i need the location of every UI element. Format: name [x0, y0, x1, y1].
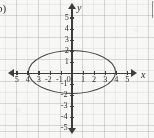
x-tick-label: 4: [114, 76, 118, 84]
ellipse-curve: [28, 50, 116, 94]
x-axis-arrow-left-icon: [8, 69, 14, 77]
x-tick-label: 5: [15, 76, 19, 84]
figure-canvas: b) x y 543-2-11234554321-1-2-3-4-5 0: [0, 0, 154, 138]
x-tick: [83, 71, 84, 75]
coordinate-plot: x y 543-2-11234554321-1-2-3-4-5 0: [0, 0, 154, 138]
x-tick-label: 3: [37, 76, 41, 84]
y-tick: [70, 128, 74, 129]
y-tick: [70, 95, 74, 96]
y-tick: [70, 29, 74, 30]
x-tick-label: 1: [81, 76, 85, 84]
y-tick: [70, 62, 74, 63]
y-tick: [70, 117, 74, 118]
y-tick-label: 1: [65, 58, 69, 66]
y-axis-label: y: [77, 2, 81, 13]
x-axis-label: x: [141, 69, 145, 80]
x-tick-label: 5: [125, 76, 129, 84]
x-tick-label: 2: [92, 76, 96, 84]
x-tick: [127, 71, 128, 75]
y-tick-label: 5: [65, 14, 69, 22]
x-tick: [94, 71, 95, 75]
x-tick: [27, 71, 28, 75]
x-tick: [61, 71, 62, 75]
x-tick: [105, 71, 106, 75]
x-tick: [16, 71, 17, 75]
y-tick-label: 3: [65, 36, 69, 44]
y-tick-label: -2: [61, 91, 68, 99]
y-tick-label: 2: [65, 47, 69, 55]
y-tick: [70, 17, 74, 18]
y-tick: [70, 51, 74, 52]
x-tick-label: 4: [26, 76, 30, 84]
x-axis-arrow-right-icon: [131, 69, 137, 77]
x-tick: [38, 71, 39, 75]
y-tick-label: -5: [61, 124, 68, 132]
y-tick-label: -3: [61, 102, 68, 110]
x-tick: [116, 71, 117, 75]
y-tick-label: 4: [65, 25, 69, 33]
y-tick: [70, 106, 74, 107]
y-tick: [70, 40, 74, 41]
x-tick-label: 3: [103, 76, 107, 84]
x-tick: [50, 71, 51, 75]
y-tick-label: -4: [61, 113, 68, 121]
x-tick-label: -2: [45, 76, 52, 84]
origin-label: 0: [67, 75, 71, 84]
y-axis-arrow-up-icon: [68, 3, 76, 9]
